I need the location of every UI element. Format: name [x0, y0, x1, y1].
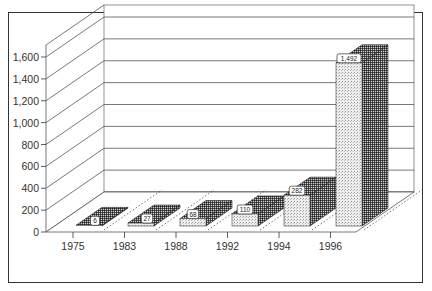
- y-tick-label: 1,200: [13, 95, 39, 107]
- bar-chart-3d: 627681102821,492 02004006008001,0001,200…: [0, 0, 432, 291]
- y-tick-label: 1,600: [13, 51, 39, 63]
- y-tick-label: 1,000: [13, 117, 39, 129]
- x-tick-label: 1996: [319, 240, 343, 252]
- y-tick-label: 1,400: [13, 73, 39, 85]
- y-tick-label: 200: [21, 204, 39, 216]
- data-label: 282: [292, 187, 303, 194]
- data-label: 110: [240, 206, 251, 213]
- x-tick-label: 1994: [267, 240, 291, 252]
- data-label: 1,492: [341, 55, 358, 62]
- x-tick-label: 1988: [164, 240, 188, 252]
- y-tick-label: 0: [33, 226, 39, 238]
- data-label: 68: [189, 211, 197, 218]
- x-tick-label: 1992: [216, 240, 240, 252]
- data-label: 27: [143, 215, 151, 222]
- y-tick-label: 600: [21, 160, 39, 172]
- x-tick-label: 1983: [113, 240, 137, 252]
- y-tick-label: 400: [21, 182, 39, 194]
- x-tick-label: 1975: [61, 240, 85, 252]
- y-tick-label: 800: [21, 139, 39, 151]
- data-label: 6: [93, 217, 97, 224]
